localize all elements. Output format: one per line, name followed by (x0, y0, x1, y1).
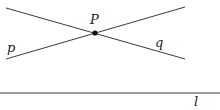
point-label-P: P (89, 12, 99, 27)
intersection-point-P (92, 30, 97, 35)
geometry-diagram: P p q l (0, 0, 220, 110)
line-label-q: q (155, 35, 163, 50)
line-label-p: p (7, 40, 16, 55)
line-label-l: l (194, 94, 198, 109)
